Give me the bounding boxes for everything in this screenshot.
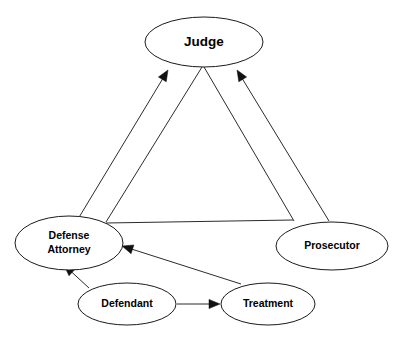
arrow-head-icon — [237, 70, 247, 82]
edge-defendant-to-treatment — [177, 299, 220, 308]
node-label-defendant: Defendant — [101, 297, 153, 309]
node-label-line: Treatment — [243, 297, 294, 309]
arrow-head-icon — [122, 245, 134, 254]
edge-line — [106, 67, 202, 222]
edge-line — [106, 220, 293, 223]
node-label-treatment: Treatment — [243, 297, 294, 309]
node-label-line: Attorney — [47, 243, 90, 255]
node-prosecutor[interactable]: Prosecutor — [276, 222, 388, 270]
node-defendant[interactable]: Defendant — [78, 283, 176, 325]
nodes-layer: JudgeDefenseAttorneyProsecutorDefendantT… — [15, 17, 388, 325]
diagram-canvas: JudgeDefenseAttorneyProsecutorDefendantT… — [0, 0, 399, 348]
node-label-line: Defendant — [101, 297, 153, 309]
node-label-defense-attorney: DefenseAttorney — [47, 229, 90, 254]
relationship-diagram: JudgeDefenseAttorneyProsecutorDefendantT… — [0, 0, 399, 348]
edges-layer — [64, 67, 329, 309]
node-label-judge: Judge — [184, 34, 224, 49]
edge-line — [128, 248, 241, 284]
arrow-head-icon — [209, 299, 220, 308]
edge-treatment-to-defense — [122, 245, 241, 284]
node-label-prosecutor: Prosecutor — [304, 239, 359, 251]
node-treatment[interactable]: Treatment — [221, 283, 315, 325]
node-judge[interactable]: Judge — [145, 17, 263, 67]
node-label-line: Judge — [184, 34, 224, 49]
node-label-line: Prosecutor — [304, 239, 359, 251]
node-label-line: Defense — [49, 229, 90, 241]
node-defense-attorney[interactable]: DefenseAttorney — [15, 216, 123, 270]
edge-defense-to-prosecutor — [106, 220, 293, 223]
edge-prosecutor-to-judge — [237, 70, 329, 221]
edge-defense-to-judge-inner — [106, 67, 202, 222]
arrow-head-icon — [158, 70, 168, 82]
edge-line — [240, 75, 329, 221]
